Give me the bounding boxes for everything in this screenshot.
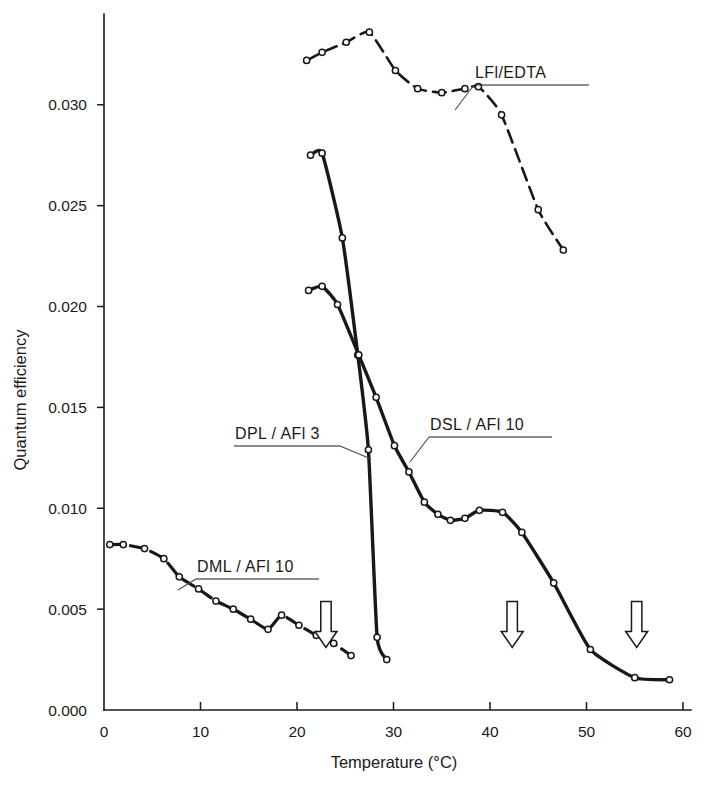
series-label-lfl-edta: LFl/EDTA <box>475 64 546 81</box>
data-point-marker <box>331 640 337 646</box>
data-point-marker <box>462 86 468 92</box>
data-point-marker <box>348 652 354 658</box>
y-tick-label: 0.010 <box>48 500 87 517</box>
quantum-efficiency-plot: 0.0000.0050.0100.0150.0200.0250.030 0102… <box>0 0 719 791</box>
x-tick-label: 0 <box>100 723 109 740</box>
data-point-marker <box>366 29 372 35</box>
data-point-marker <box>462 515 468 521</box>
data-point-marker <box>384 656 390 662</box>
data-point-marker <box>373 394 379 400</box>
data-point-marker <box>265 626 271 632</box>
series-annotations-group: LFl/EDTA DPL / AFl 3 DSL / AFl 10 DML / … <box>178 64 589 590</box>
data-point-marker <box>560 247 566 253</box>
transition-arrow-2-down-arrow-icon <box>501 601 523 647</box>
series-dpl-afl-3 <box>307 150 389 663</box>
data-point-marker <box>374 634 380 640</box>
data-point-marker <box>439 90 445 96</box>
x-tick-label: 10 <box>192 723 210 740</box>
x-tick-label: 30 <box>385 723 403 740</box>
data-point-marker <box>120 541 126 547</box>
series-annotation-dpl-afl3: DPL / AFl 3 <box>234 425 371 459</box>
chart-figure: 0.0000.0050.0100.0150.0200.0250.030 0102… <box>0 0 719 791</box>
data-point-marker <box>339 235 345 241</box>
y-axis-title: Quantum efficiency <box>11 329 29 471</box>
series-label-dml-afl10: DML / AFl 10 <box>197 558 294 575</box>
data-point-marker <box>161 556 167 562</box>
x-axis-title: Temperature (°C) <box>331 753 458 771</box>
annotation-arrows-group <box>315 601 648 647</box>
y-tick-label: 0.025 <box>48 197 87 214</box>
data-point-marker <box>498 112 504 118</box>
data-point-marker <box>304 57 310 63</box>
data-point-marker <box>334 301 340 307</box>
data-point-marker <box>421 499 427 505</box>
series-label-dsl-afl10: DSL / AFl 10 <box>430 416 524 433</box>
data-point-marker <box>319 283 325 289</box>
x-axis-ticks: 0102030405060 <box>100 702 692 740</box>
data-point-marker <box>666 677 672 683</box>
data-point-marker <box>319 150 325 156</box>
series-lfl-edta <box>304 29 567 253</box>
series-label-dpl-afl3: DPL / AFl 3 <box>235 425 320 442</box>
data-point-marker <box>391 443 397 449</box>
x-tick-label: 40 <box>481 723 499 740</box>
data-series-group <box>107 29 673 683</box>
data-point-marker <box>356 352 362 358</box>
data-point-marker <box>248 616 254 622</box>
data-point-marker <box>307 152 313 158</box>
data-point-marker <box>176 574 182 580</box>
data-point-marker <box>305 287 311 293</box>
data-point-marker <box>476 507 482 513</box>
x-tick-label: 20 <box>288 723 306 740</box>
data-point-marker <box>343 39 349 45</box>
data-point-marker <box>213 598 219 604</box>
data-point-marker <box>551 580 557 586</box>
data-point-marker <box>499 509 505 515</box>
data-point-marker <box>319 49 325 55</box>
data-point-marker <box>141 546 147 552</box>
series-dsl-afl-10 <box>305 283 672 683</box>
data-point-marker <box>392 67 398 73</box>
transition-arrow-3-down-arrow-icon <box>626 601 648 647</box>
data-point-marker <box>447 517 453 523</box>
series-curve <box>309 286 670 680</box>
data-point-marker <box>415 86 421 92</box>
data-point-marker <box>296 622 302 628</box>
axes-group <box>104 14 691 710</box>
data-point-marker <box>278 612 284 618</box>
data-point-marker <box>535 207 541 213</box>
x-tick-label: 60 <box>674 723 692 740</box>
data-point-marker <box>107 541 113 547</box>
data-point-marker <box>406 469 412 475</box>
y-tick-label: 0.015 <box>48 399 87 416</box>
y-tick-label: 0.030 <box>48 96 87 113</box>
y-tick-label: 0.020 <box>48 298 87 315</box>
y-tick-label: 0.000 <box>48 702 87 719</box>
x-tick-label: 50 <box>578 723 596 740</box>
label-leader-dsl-afl10 <box>410 437 429 462</box>
data-point-marker <box>365 447 371 453</box>
series-annotation-dsl-afl10: DSL / AFl 10 <box>410 416 552 462</box>
data-point-marker <box>435 511 441 517</box>
data-point-marker <box>230 606 236 612</box>
series-curve <box>311 151 387 660</box>
data-point-marker <box>195 586 201 592</box>
y-axis-ticks: 0.0000.0050.0100.0150.0200.0250.030 <box>48 96 104 718</box>
data-point-marker <box>632 675 638 681</box>
y-tick-label: 0.005 <box>48 601 87 618</box>
data-point-marker <box>587 646 593 652</box>
data-point-marker <box>519 529 525 535</box>
